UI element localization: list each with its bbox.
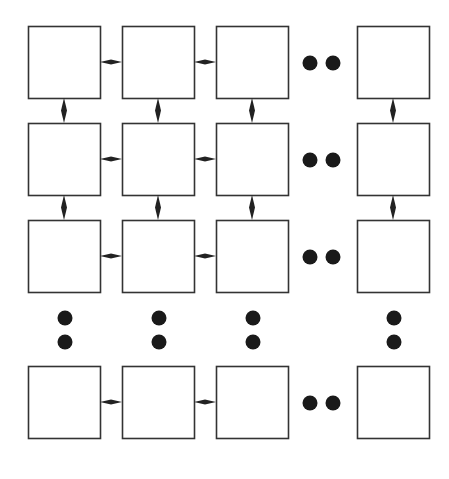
bidirectional-connector-v xyxy=(61,195,67,220)
node-box xyxy=(217,367,289,439)
ellipsis-dot xyxy=(58,335,73,350)
ellipsis-dot xyxy=(326,250,341,265)
node-box xyxy=(217,221,289,293)
bidirectional-connector-v xyxy=(155,98,161,123)
node-box xyxy=(358,221,430,293)
bidirectional-connector-h xyxy=(194,254,216,259)
node-box xyxy=(123,124,195,196)
ellipsis-dot xyxy=(326,153,341,168)
bidirectional-connector-v xyxy=(390,98,396,123)
ellipsis-dot xyxy=(152,335,167,350)
ellipsis-dot xyxy=(326,396,341,411)
bidirectional-connector-h xyxy=(100,157,122,162)
ellipsis-dot xyxy=(303,153,318,168)
bidirectional-connector-v xyxy=(61,98,67,123)
node-box xyxy=(29,27,101,99)
node-box xyxy=(123,367,195,439)
node-box xyxy=(217,124,289,196)
node-box xyxy=(123,221,195,293)
node-box xyxy=(29,367,101,439)
node-box xyxy=(217,27,289,99)
ellipsis-dot xyxy=(387,335,402,350)
node-box xyxy=(29,221,101,293)
bidirectional-connector-v xyxy=(155,195,161,220)
ellipsis-dot xyxy=(303,56,318,71)
bidirectional-connector-h xyxy=(194,60,216,65)
bidirectional-connector-h xyxy=(194,400,216,405)
node-box xyxy=(29,124,101,196)
ellipsis-dot xyxy=(303,396,318,411)
ellipsis-dot xyxy=(58,311,73,326)
ellipsis-dot xyxy=(326,56,341,71)
bidirectional-connector-h xyxy=(100,60,122,65)
node-box xyxy=(358,367,430,439)
bidirectional-connector-h xyxy=(194,157,216,162)
node-box xyxy=(358,27,430,99)
bidirectional-connector-h xyxy=(100,254,122,259)
node-box xyxy=(358,124,430,196)
bidirectional-connector-v xyxy=(249,98,255,123)
ellipsis-dot xyxy=(387,311,402,326)
mesh-diagram xyxy=(0,0,449,479)
ellipsis-dot xyxy=(152,311,167,326)
ellipsis-dot xyxy=(303,250,318,265)
node-box xyxy=(123,27,195,99)
ellipsis-dot xyxy=(246,311,261,326)
bidirectional-connector-v xyxy=(390,195,396,220)
bidirectional-connector-h xyxy=(100,400,122,405)
ellipsis-dot xyxy=(246,335,261,350)
bidirectional-connector-v xyxy=(249,195,255,220)
